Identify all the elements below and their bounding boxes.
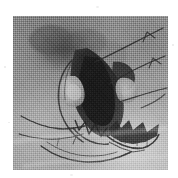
paper-speck bbox=[8, 122, 10, 123]
paper-speck bbox=[96, 6, 99, 8]
paper-speck bbox=[172, 44, 174, 46]
paper-speck bbox=[70, 174, 73, 176]
paper-speck bbox=[4, 66, 6, 68]
figure-page bbox=[0, 0, 178, 178]
scan-grain-texture bbox=[13, 16, 168, 170]
scanned-plate bbox=[13, 16, 168, 170]
